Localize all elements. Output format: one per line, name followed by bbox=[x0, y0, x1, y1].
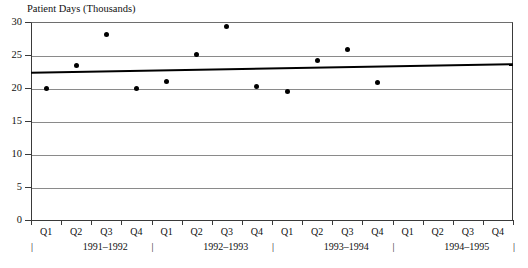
x-tick-end bbox=[513, 220, 514, 225]
period-label-3: 1994–1995 bbox=[407, 241, 527, 252]
data-point bbox=[74, 63, 79, 68]
x-tick-7 bbox=[242, 220, 243, 225]
data-point bbox=[104, 32, 109, 37]
y-axis-label-25: 25 bbox=[0, 50, 22, 60]
period-label-0: 1991–1992 bbox=[45, 241, 165, 252]
data-point bbox=[315, 58, 320, 63]
x-tick-12 bbox=[393, 220, 394, 225]
x-tick-5 bbox=[182, 220, 183, 225]
y-axis-label-10: 10 bbox=[0, 149, 22, 159]
period-tick-2: | bbox=[272, 241, 274, 252]
data-point bbox=[44, 86, 49, 91]
y-axis-label-30: 30 bbox=[0, 17, 22, 27]
x-tick-14 bbox=[453, 220, 454, 225]
x-tick-6 bbox=[212, 220, 213, 225]
period-tick-0: | bbox=[31, 241, 33, 252]
data-point bbox=[375, 80, 380, 85]
y-axis-label-15: 15 bbox=[0, 116, 22, 126]
period-label-2: 1993–1994 bbox=[286, 241, 406, 252]
period-tick-1: | bbox=[152, 241, 154, 252]
y-axis-label-20: 20 bbox=[0, 83, 22, 93]
data-point bbox=[345, 47, 350, 52]
period-label-1: 1992–1993 bbox=[166, 241, 286, 252]
patient-days-chart: Patient Days (Thousands) 051015202530 Q1… bbox=[0, 0, 528, 268]
x-tick-0 bbox=[31, 220, 32, 225]
trend-line bbox=[31, 22, 513, 220]
period-tick-end: | bbox=[513, 241, 515, 252]
x-tick-15 bbox=[483, 220, 484, 225]
data-point bbox=[134, 86, 139, 91]
data-point bbox=[164, 79, 169, 84]
trend-line-segment bbox=[31, 64, 513, 73]
x-tick-4 bbox=[152, 220, 153, 225]
chart-title: Patient Days (Thousands) bbox=[27, 2, 135, 15]
x-tick-8 bbox=[272, 220, 273, 225]
x-tick-9 bbox=[302, 220, 303, 225]
period-tick-3: | bbox=[393, 241, 395, 252]
x-tick-3 bbox=[121, 220, 122, 225]
x-tick-2 bbox=[91, 220, 92, 225]
x-tick-13 bbox=[423, 220, 424, 225]
x-tick-11 bbox=[362, 220, 363, 225]
x-tick-1 bbox=[61, 220, 62, 225]
data-point bbox=[194, 52, 199, 57]
x-tick-10 bbox=[332, 220, 333, 225]
y-axis-label-0: 0 bbox=[0, 215, 22, 225]
y-axis-label-5: 5 bbox=[0, 182, 22, 192]
x-axis-label-15: Q4 bbox=[478, 226, 518, 238]
